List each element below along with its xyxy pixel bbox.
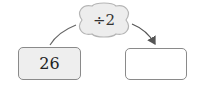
output-arrow <box>132 24 155 44</box>
output-box[interactable] <box>125 48 187 80</box>
input-value: 26 <box>39 54 59 73</box>
input-connector <box>50 25 76 45</box>
operation-label: ÷2 <box>74 2 134 38</box>
input-box: 26 <box>18 47 81 80</box>
